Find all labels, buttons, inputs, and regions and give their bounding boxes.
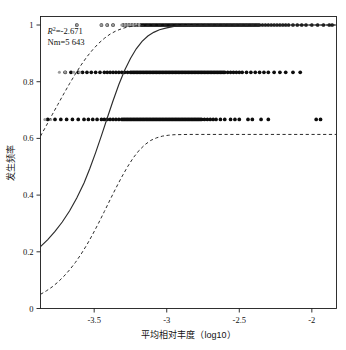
data-point: [98, 70, 102, 74]
data-point: [266, 70, 270, 74]
fit-curve-line: [41, 25, 337, 247]
data-point: [245, 70, 249, 74]
data-point: [253, 70, 257, 74]
data-point: [112, 24, 115, 27]
y-axis-tick-label: 0.4: [23, 190, 34, 200]
data-point: [64, 71, 67, 74]
data-point: [71, 118, 75, 122]
annotation-r-squared: R2=-2.671: [47, 26, 83, 36]
data-point: [100, 24, 103, 27]
y-axis-tick-label: 0.6: [23, 133, 34, 143]
data-point: [106, 24, 109, 27]
data-point: [43, 118, 46, 121]
data-point: [249, 70, 253, 74]
chart-figure: 00.20.40.60.81-3.5-3-2.5-2平均相对丰度（log10）发…: [0, 0, 346, 350]
data-point: [123, 24, 126, 27]
data-point: [87, 118, 91, 122]
data-point: [284, 70, 288, 74]
data-point: [82, 118, 86, 122]
r-squared-value: =-2.671: [56, 26, 83, 36]
x-axis-tick-label: -3: [163, 315, 170, 325]
data-point: [85, 70, 89, 74]
scatter-series: [46, 118, 322, 122]
data-point: [291, 70, 295, 74]
data-point: [219, 118, 223, 122]
data-point: [94, 70, 98, 74]
data-point: [76, 118, 80, 122]
chart-svg: 00.20.40.60.81-3.5-3-2.5-2平均相对丰度（log10）发…: [0, 0, 346, 350]
data-point: [298, 70, 302, 74]
data-point: [81, 70, 85, 74]
data-point: [246, 118, 250, 122]
data-point: [250, 118, 254, 122]
data-point: [259, 118, 263, 122]
data-point: [314, 118, 318, 122]
data-point: [53, 118, 57, 122]
y-axis-title-text: 发生频率: [5, 145, 16, 181]
data-point: [138, 24, 141, 27]
data-point: [229, 118, 233, 122]
data-point: [258, 70, 262, 74]
x-axis-tick-label: -3.5: [87, 315, 100, 325]
data-point: [214, 118, 218, 122]
data-point: [58, 71, 61, 74]
data-point: [59, 118, 63, 122]
y-axis-title: 发生频率: [5, 145, 16, 181]
data-point: [126, 24, 129, 27]
data-point: [272, 70, 276, 74]
data-point: [233, 118, 237, 122]
data-point: [262, 70, 266, 74]
scatter-series: [63, 70, 302, 74]
data-point: [120, 24, 123, 27]
data-point: [65, 118, 69, 122]
x-axis-title: 平均相对丰度（log10）: [141, 329, 235, 340]
data-point: [319, 118, 323, 122]
data-point: [69, 70, 73, 74]
data-point: [91, 118, 95, 122]
data-point: [132, 24, 135, 27]
x-axis-tick-label: -2: [308, 315, 315, 325]
y-axis-tick-label: 0.2: [23, 247, 34, 257]
y-axis-tick-label: 0.8: [23, 77, 34, 87]
data-point: [75, 24, 78, 27]
data-point: [237, 118, 241, 122]
data-point: [266, 118, 270, 122]
data-point: [95, 118, 99, 122]
x-axis-tick-label: -2.5: [233, 315, 246, 325]
data-point: [78, 71, 81, 74]
data-point: [240, 70, 244, 74]
data-point: [72, 71, 75, 74]
y-axis-tick-label: 1: [29, 20, 33, 30]
data-point: [89, 70, 93, 74]
data-point: [278, 70, 282, 74]
data-point: [223, 118, 227, 122]
y-axis-tick-label: 0: [29, 304, 33, 314]
annotation-nm: Nm=5 643: [48, 37, 85, 47]
confidence-band-line: [41, 134, 337, 294]
